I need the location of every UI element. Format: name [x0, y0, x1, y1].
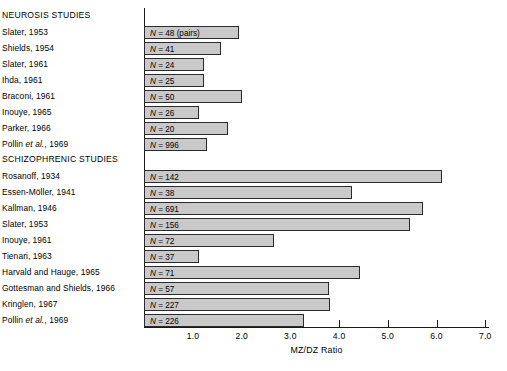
bar: N = 20 — [144, 122, 228, 135]
study-label: Inouye, 1965 — [2, 107, 138, 117]
study-label: Essen-Möller, 1941 — [2, 187, 138, 197]
bar: N = 37 — [144, 250, 199, 263]
x-tick-label: 6.0 — [430, 331, 443, 341]
bar-sample-size-label: N = 41 — [150, 44, 174, 53]
study-label: Harvald and Hauge, 1965 — [2, 267, 138, 277]
x-tick-label: 5.0 — [382, 331, 395, 341]
study-label: Braconi, 1961 — [2, 91, 138, 101]
section-heading: SCHIZOPHRENIC STUDIES — [2, 154, 118, 164]
study-label: Inouye, 1961 — [2, 235, 138, 245]
study-label: Pollin et al., 1969 — [2, 315, 138, 325]
study-label: Kallman, 1946 — [2, 203, 138, 213]
bar-sample-size-label: N = 25 — [150, 76, 174, 85]
x-tick-6.0 — [437, 320, 438, 327]
bar-sample-size-label: N = 57 — [150, 284, 174, 293]
bar: N = 996 — [144, 138, 207, 151]
bar-sample-size-label: N = 50 — [150, 92, 174, 101]
study-label-column: NEUROSIS STUDIESSlater, 1953Shields, 195… — [0, 0, 142, 371]
study-label: Pollin et al., 1969 — [2, 139, 138, 149]
bar-sample-size-label: N = 38 — [150, 188, 174, 197]
study-label: Kringlen, 1967 — [2, 299, 138, 309]
bar: N = 41 — [144, 42, 221, 55]
y-axis-line — [144, 8, 145, 328]
study-label: Slater, 1953 — [2, 27, 138, 37]
bar-sample-size-label: N = 20 — [150, 124, 174, 133]
mz-dz-ratio-chart: NEUROSIS STUDIESSlater, 1953Shields, 195… — [0, 0, 507, 371]
x-tick-7.0 — [485, 320, 486, 327]
bar-sample-size-label: N = 227 — [150, 300, 179, 309]
bar: N = 57 — [144, 282, 329, 295]
bar: N = 71 — [144, 266, 360, 279]
plot-area: 1.02.03.04.05.06.07.0 MZ/DZ Ratio N = 48… — [144, 0, 507, 371]
study-label: Ihda, 1961 — [2, 75, 138, 85]
x-tick-label: 1.0 — [187, 331, 200, 341]
bar-sample-size-label: N = 48 (pairs) — [150, 28, 200, 37]
x-tick-label: 7.0 — [479, 331, 492, 341]
bar: N = 227 — [144, 298, 330, 311]
bar-sample-size-label: N = 24 — [150, 60, 174, 69]
bar: N = 38 — [144, 186, 352, 199]
study-label: Slater, 1961 — [2, 59, 138, 69]
x-tick-label: 2.0 — [235, 331, 248, 341]
bar-sample-size-label: N = 37 — [150, 252, 174, 261]
x-tick-5.0 — [388, 320, 389, 327]
bar: N = 50 — [144, 90, 242, 103]
section-heading: NEUROSIS STUDIES — [2, 10, 91, 20]
bar: N = 72 — [144, 234, 274, 247]
x-tick-4.0 — [339, 320, 340, 327]
bar: N = 142 — [144, 170, 442, 183]
study-label: Shields, 1954 — [2, 43, 138, 53]
x-tick-label: 3.0 — [284, 331, 297, 341]
bar-sample-size-label: N = 26 — [150, 108, 174, 117]
bar-sample-size-label: N = 142 — [150, 172, 179, 181]
study-label: Parker, 1966 — [2, 123, 138, 133]
bar: N = 24 — [144, 58, 204, 71]
study-label: Rosanoff, 1934 — [2, 171, 138, 181]
bar-sample-size-label: N = 226 — [150, 316, 179, 325]
bar-sample-size-label: N = 156 — [150, 220, 179, 229]
study-label: Tienari, 1963 — [2, 251, 138, 261]
bar-sample-size-label: N = 72 — [150, 236, 174, 245]
bar-sample-size-label: N = 71 — [150, 268, 174, 277]
bar: N = 156 — [144, 218, 410, 231]
bar: N = 25 — [144, 74, 204, 87]
bar: N = 226 — [144, 314, 304, 327]
bar-sample-size-label: N = 691 — [150, 204, 179, 213]
bar: N = 48 (pairs) — [144, 26, 239, 39]
bar-sample-size-label: N = 996 — [150, 140, 179, 149]
bar: N = 691 — [144, 202, 423, 215]
x-tick-label: 4.0 — [333, 331, 346, 341]
x-axis-line — [144, 327, 489, 328]
study-label: Slater, 1953 — [2, 219, 138, 229]
bar: N = 26 — [144, 106, 199, 119]
x-axis-title: MZ/DZ Ratio — [144, 345, 489, 355]
study-label: Gottesman and Shields, 1966 — [2, 283, 138, 293]
